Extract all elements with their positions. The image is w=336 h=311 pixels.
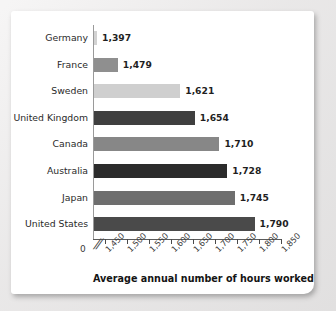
bar-row: Germany1,397 (11, 25, 314, 51)
chart-screenshot: // 0 1,4501,5001,5501,6001,6501,7001,750… (0, 0, 336, 311)
bar (94, 84, 180, 98)
bar-value-label: 1,710 (224, 137, 253, 151)
bar-row: United Kingdom1,654 (11, 105, 314, 131)
bar (94, 137, 219, 151)
bar-value-label: 1,479 (123, 58, 152, 72)
category-label: Japan (0, 185, 88, 211)
bar-row: Australia1,728 (11, 158, 314, 184)
bar-row: Canada1,710 (11, 131, 314, 157)
x-axis-title: Average annual number of hours worked (93, 273, 303, 284)
category-label: Sweden (0, 78, 88, 104)
bar-row: France1,479 (11, 52, 314, 78)
bar-row: Sweden1,621 (11, 78, 314, 104)
plot-area: // 0 1,4501,5001,5501,6001,6501,7001,750… (11, 11, 314, 294)
bar (94, 191, 235, 205)
bar-value-label: 1,654 (200, 111, 229, 125)
bar (94, 58, 118, 72)
bar (94, 31, 97, 45)
category-label: Canada (0, 131, 88, 157)
bar-value-label: 1,745 (240, 191, 269, 205)
bar-value-label: 1,728 (232, 164, 261, 178)
bar (94, 111, 195, 125)
chart-panel: // 0 1,4501,5001,5501,6001,6501,7001,750… (11, 11, 314, 294)
category-label: France (0, 52, 88, 78)
category-label: Germany (0, 25, 88, 51)
bar-row: United States1,790 (11, 211, 314, 237)
category-label: Australia (0, 158, 88, 184)
category-label: United States (0, 211, 88, 237)
bar (94, 164, 227, 178)
bar-value-label: 1,397 (102, 31, 131, 45)
bar-value-label: 1,790 (260, 217, 289, 231)
bar (94, 217, 255, 231)
bar-value-label: 1,621 (185, 84, 214, 98)
category-label: United Kingdom (0, 105, 88, 131)
bar-row: Japan1,745 (11, 185, 314, 211)
axis-origin-label: 0 (80, 244, 86, 254)
